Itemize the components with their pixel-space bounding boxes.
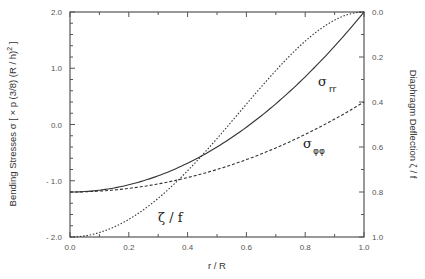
svg-text:φφ: φφ	[313, 146, 325, 156]
x-tick-label: 0.0	[64, 243, 76, 252]
curve-sigma-rr	[70, 12, 364, 192]
x-tick-label: 0.8	[300, 243, 312, 252]
plot-frame	[70, 12, 364, 237]
y-right-tick-label: 1.0	[372, 233, 384, 242]
x-tick-label: 1.0	[358, 243, 370, 252]
y-right-tick-label: 0.6	[372, 143, 384, 152]
svg-text:ζ / f: ζ / f	[158, 210, 184, 225]
svg-text:Diaphragm Deflection ζ / f: Diaphragm Deflection ζ / f	[408, 70, 419, 179]
svg-text:σ: σ	[303, 136, 312, 151]
y-left-tick-label: - 2.0	[46, 233, 63, 242]
svg-text:Bending Stresses σ [ × p (3/8: Bending Stresses σ [ × p (3/8) (R / h)2 …	[6, 42, 18, 207]
y-right-tick-label: 0.2	[372, 53, 384, 62]
curve-zeta-f	[70, 12, 364, 237]
y-left-title-close: ]	[7, 42, 18, 47]
x-axis-title: r / R	[208, 260, 226, 271]
y-left-tick-label: 2.0	[51, 8, 63, 17]
svg-text:rr: rr	[329, 84, 337, 94]
x-tick-label: 0.2	[123, 243, 135, 252]
y-left-tick-label: 0.0	[51, 121, 63, 130]
y-left-axis-title: Bending Stresses σ [ × p (3/8) (R / h)2 …	[6, 42, 18, 207]
label-sigma-rr: σ rr	[318, 74, 337, 94]
axis-ticks: 0.00.20.40.60.81.02.01.00.0- 1.0- 2.00.0…	[46, 8, 384, 252]
y-left-tick-label: - 1.0	[46, 177, 63, 186]
y-right-tick-label: 0.0	[372, 8, 384, 17]
y-right-tick-label: 0.4	[372, 98, 384, 107]
y-left-title-main: Bending Stresses σ [ × p (3/8) (R / h)	[7, 51, 18, 207]
y-right-tick-label: 0.8	[372, 188, 384, 197]
y-left-tick-label: 1.0	[51, 64, 63, 73]
label-zeta-f: ζ / f	[158, 210, 184, 225]
y-right-axis-title: Diaphragm Deflection ζ / f	[408, 70, 419, 179]
chart: 0.00.20.40.60.81.02.01.00.0- 1.0- 2.00.0…	[0, 0, 425, 279]
svg-text:σ: σ	[318, 74, 327, 89]
label-sigma-phiphi: σ φφ	[303, 136, 325, 156]
x-tick-label: 0.4	[182, 243, 194, 252]
curves	[70, 12, 364, 237]
x-tick-label: 0.6	[241, 243, 253, 252]
plot-border	[70, 12, 364, 237]
